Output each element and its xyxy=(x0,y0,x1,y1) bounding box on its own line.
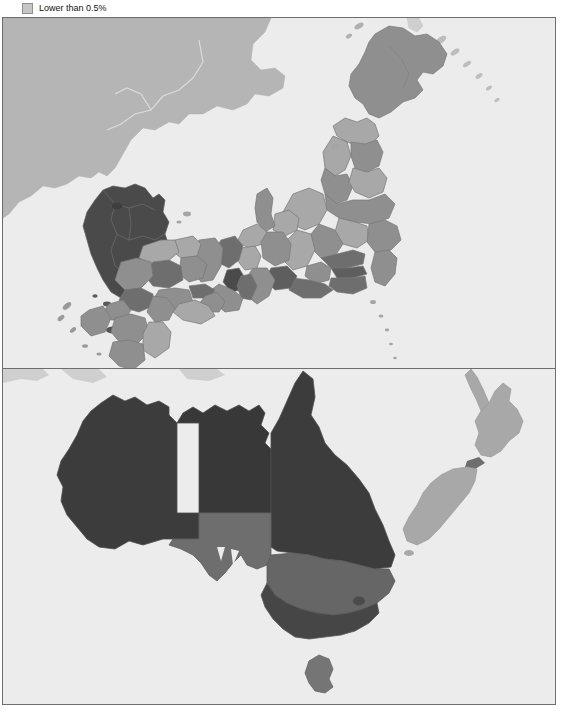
legend-swatch-icon xyxy=(22,3,33,14)
australia-newzealand-panel xyxy=(3,369,555,704)
legend-label: Lower than 0.5% xyxy=(39,3,107,14)
legend: Lower than 0.5% xyxy=(0,0,568,17)
map-frame xyxy=(2,17,556,705)
australia-newzealand-map-svg xyxy=(3,369,555,704)
region-australian-capital-territory xyxy=(353,597,365,606)
region-nz-stewart-island xyxy=(404,550,414,556)
japan-korea-map-svg xyxy=(3,18,555,368)
japan-korea-panel xyxy=(3,18,555,368)
